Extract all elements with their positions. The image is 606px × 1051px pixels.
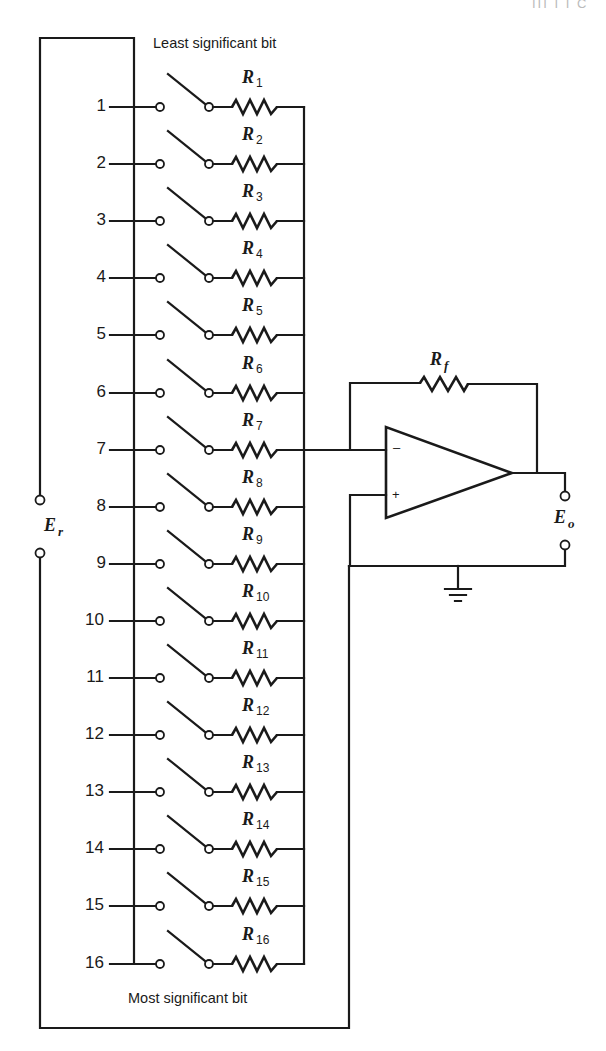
resistor-label: R5 (242, 295, 263, 318)
switch-row (110, 645, 304, 685)
resistor-icon (232, 386, 277, 400)
switch-arm (168, 931, 205, 961)
bit-number-label: 13 (76, 781, 104, 801)
bit-number-label: 6 (78, 382, 106, 402)
switch-row (110, 873, 304, 913)
feedback-resistor (420, 377, 468, 391)
switch-arm (168, 531, 205, 561)
bit-number-label: 7 (78, 439, 106, 459)
switch-rows (110, 74, 304, 971)
switch-pivot-contact (205, 331, 213, 339)
resistor-label: R6 (242, 353, 263, 376)
resistor-label: R13 (242, 752, 269, 775)
dac-circuit-diagram: III I I C Least significant bit Most sig… (0, 0, 606, 1051)
bit-number-label: 2 (78, 153, 106, 173)
switch-arm (168, 873, 205, 903)
page-header-fragment: III I I C (532, 0, 588, 11)
switch-arm (168, 759, 205, 789)
switch-fixed-contact (156, 674, 164, 682)
switch-arm (168, 588, 205, 618)
switch-row (110, 245, 304, 285)
msb-label: Most significant bit (128, 990, 247, 1006)
bit-number-label: 8 (78, 496, 106, 516)
switch-pivot-contact (205, 845, 213, 853)
switch-fixed-contact (156, 503, 164, 511)
switch-pivot-contact (205, 674, 213, 682)
resistor-icon (232, 557, 277, 571)
bit-number-label: 5 (78, 324, 106, 344)
switch-pivot-contact (205, 617, 213, 625)
bit-number-label: 14 (76, 838, 104, 858)
bit-number-label: 11 (76, 667, 104, 687)
switch-pivot-contact (205, 960, 213, 968)
switch-fixed-contact (156, 617, 164, 625)
bit-number-label: 15 (76, 895, 104, 915)
switch-row (110, 931, 304, 971)
resistor-label: R12 (242, 695, 269, 718)
opamp-triangle (386, 427, 512, 518)
switch-pivot-contact (205, 788, 213, 796)
resistor-icon (232, 728, 277, 742)
switch-pivot-contact (205, 103, 213, 111)
bit-number-label: 4 (78, 267, 106, 287)
bit-number-label: 12 (76, 724, 104, 744)
resistor-icon (232, 100, 277, 114)
switch-pivot-contact (205, 389, 213, 397)
bit-number-label: 16 (76, 953, 104, 973)
resistor-icon (232, 785, 277, 799)
eo-terminal-top (561, 492, 570, 501)
switch-row (110, 531, 304, 571)
resistor-label: R2 (242, 124, 263, 147)
resistor-icon (232, 328, 277, 342)
switch-pivot-contact (205, 731, 213, 739)
switch-fixed-contact (156, 331, 164, 339)
switch-arm (168, 417, 205, 447)
feedback-wire (350, 383, 537, 473)
switch-pivot-contact (205, 217, 213, 225)
resistor-icon (232, 443, 277, 457)
resistor-icon (232, 671, 277, 685)
switch-row (110, 302, 304, 342)
switch-fixed-contact (156, 103, 164, 111)
resistor-icon (232, 271, 277, 285)
switch-row (110, 360, 304, 400)
inverting-sign: – (393, 440, 400, 455)
switch-arm (168, 74, 205, 104)
resistor-label: R7 (242, 410, 263, 433)
switch-arm (168, 816, 205, 846)
resistor-label: R3 (242, 181, 263, 204)
switch-fixed-contact (156, 902, 164, 910)
resistor-label: R11 (242, 638, 268, 661)
switch-pivot-contact (205, 503, 213, 511)
ground-rail (349, 550, 565, 566)
switch-arm (168, 474, 205, 504)
er-label: Er (44, 515, 63, 540)
switch-row (110, 74, 304, 114)
resistor-icon (232, 500, 277, 514)
switch-fixed-contact (156, 731, 164, 739)
switch-pivot-contact (205, 560, 213, 568)
switch-pivot-contact (205, 274, 213, 282)
switch-arm (168, 188, 205, 218)
resistor-icon (232, 899, 277, 913)
er-terminal-bottom (36, 549, 45, 558)
switch-fixed-contact (156, 560, 164, 568)
switch-pivot-contact (205, 160, 213, 168)
noninverting-sign: + (392, 487, 400, 502)
switch-arm (168, 245, 205, 275)
bit-number-label: 10 (76, 610, 104, 630)
resistor-icon (232, 614, 277, 628)
resistor-label: R9 (242, 524, 263, 547)
resistor-label: R10 (242, 581, 269, 604)
switch-row (110, 702, 304, 742)
switch-fixed-contact (156, 446, 164, 454)
bit-number-label: 3 (78, 210, 106, 230)
resistor-label: R14 (242, 809, 269, 832)
switch-fixed-contact (156, 160, 164, 168)
switch-fixed-contact (156, 960, 164, 968)
switch-pivot-contact (205, 446, 213, 454)
switch-fixed-contact (156, 845, 164, 853)
resistor-label: R1 (242, 67, 263, 90)
er-terminal-top (36, 496, 45, 505)
switch-fixed-contact (156, 788, 164, 796)
